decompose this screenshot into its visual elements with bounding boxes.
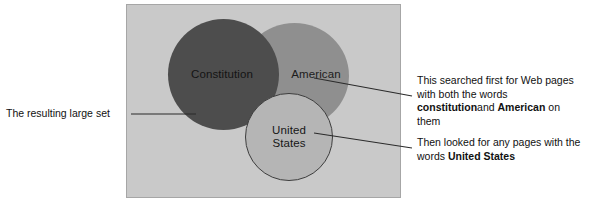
annotation-right-top-line2-pre: with both the words [417, 88, 507, 100]
venn-label-american: American [281, 68, 351, 81]
venn-label-constitution: Constitution [172, 68, 272, 81]
venn-diagram-figure: Constitution American United States The … [0, 0, 589, 209]
annotation-right-top-term-american: American [498, 101, 546, 113]
annotation-right-top-term-constitution: constitution [417, 101, 477, 113]
annotation-right-top: This searched first for Web pages with b… [417, 74, 585, 128]
annotation-left-text: The resulting large set [6, 107, 110, 119]
annotation-right-bottom: Then looked for any pages with the words… [417, 136, 585, 163]
venn-label-united-states: United States [255, 124, 323, 149]
annotation-right-bottom-term-united-states: United States [448, 150, 515, 162]
annotation-right-bottom-line1: Then looked for any pages with the [417, 136, 580, 148]
annotation-right-top-line3-pre: and [477, 101, 497, 113]
annotation-right-top-line1: This searched first for Web pages [417, 74, 574, 86]
annotation-left: The resulting large set [6, 107, 126, 121]
annotation-right-bottom-line2-pre: words [417, 150, 448, 162]
